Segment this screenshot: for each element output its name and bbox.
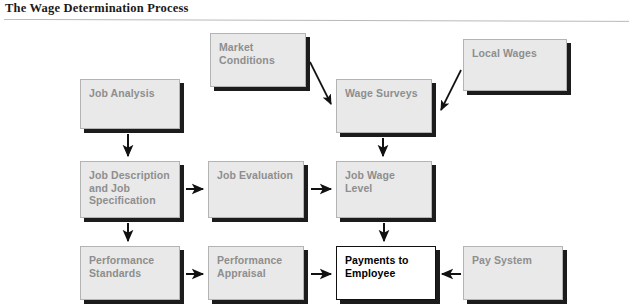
- node-local-wages[interactable]: Local Wages: [463, 39, 567, 91]
- node-label: Market Conditions: [219, 41, 297, 66]
- node-wage-surveys[interactable]: Wage Surveys: [336, 79, 432, 133]
- node-label: Pay System: [472, 254, 554, 267]
- node-label: Job Description and Job Specification: [89, 169, 171, 207]
- node-job-analysis[interactable]: Job Analysis: [80, 79, 180, 129]
- node-job-wage-level[interactable]: Job Wage Level: [336, 161, 432, 218]
- node-job-description-and-job-specification[interactable]: Job Description and Job Specification: [80, 161, 180, 218]
- node-label: Job Analysis: [89, 87, 171, 100]
- node-pay-system[interactable]: Pay System: [463, 246, 563, 300]
- flowchart-canvas: Market Conditions Local Wages Job Analys…: [0, 0, 629, 307]
- node-performance-standards[interactable]: Performance Standards: [80, 246, 180, 300]
- edge-local-wages-to-wage-surveys: [441, 70, 461, 110]
- node-label: Job Wage Level: [345, 169, 423, 194]
- node-job-evaluation[interactable]: Job Evaluation: [208, 161, 304, 218]
- node-label: Wage Surveys: [345, 87, 423, 100]
- node-market-conditions[interactable]: Market Conditions: [210, 33, 306, 87]
- node-label: Local Wages: [472, 47, 558, 60]
- node-label: Performance Standards: [89, 254, 171, 279]
- node-payments-to-employee[interactable]: Payments to Employee: [336, 246, 436, 300]
- node-performance-appraisal[interactable]: Performance Appraisal: [208, 246, 304, 300]
- edge-market-conditions-to-wage-surveys: [310, 62, 331, 104]
- node-label: Performance Appraisal: [217, 254, 295, 279]
- node-label: Payments to Employee: [345, 254, 427, 279]
- node-label: Job Evaluation: [217, 169, 295, 182]
